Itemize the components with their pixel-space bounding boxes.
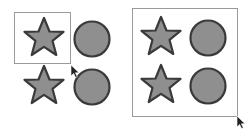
circle-shape[interactable] [75, 70, 110, 105]
circle-shape[interactable] [191, 69, 226, 104]
circle-shape[interactable] [191, 21, 226, 56]
star-shape[interactable] [142, 17, 181, 54]
left-panel [15, 13, 110, 105]
circle-shape[interactable] [75, 22, 110, 57]
star-shape[interactable] [142, 65, 181, 102]
mouse-cursor-icon [237, 116, 245, 129]
diagram-canvas [0, 0, 247, 131]
right-panel [133, 9, 246, 129]
star-shape[interactable] [25, 18, 64, 55]
star-shape[interactable] [25, 66, 64, 103]
